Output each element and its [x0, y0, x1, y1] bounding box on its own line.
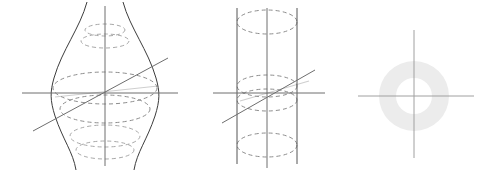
figure-annulus	[358, 30, 474, 158]
figures-canvas	[0, 0, 496, 172]
figure-hyperboloid	[22, 2, 178, 170]
cylinder-slant-axis	[222, 70, 315, 123]
figures-svg	[0, 0, 496, 172]
figure-cylinder	[213, 8, 325, 168]
hyperboloid-slant-axis	[33, 58, 168, 131]
